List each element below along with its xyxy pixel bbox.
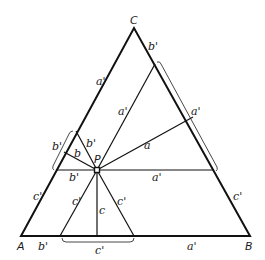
- label-b-perp: b: [74, 147, 81, 160]
- label-c-prime-right-side: c': [233, 190, 242, 203]
- label-a-prime-inner: a': [118, 105, 128, 118]
- vertex-a-label: A: [16, 240, 25, 253]
- label-c-prime-left-side: c': [33, 190, 42, 203]
- label-b-prime-upper: b': [86, 137, 96, 150]
- label-a-prime-horizontal: a': [152, 171, 162, 184]
- label-c-prime-base-bracket: c': [95, 244, 104, 257]
- triangle-diagram: C A B P b' a' a' a' a b' b b' b' a' c' c…: [0, 0, 265, 260]
- label-a-prime-left-side: a': [96, 75, 106, 88]
- triangle-abc: [21, 28, 250, 236]
- label-a-prime-right-bracket: a': [191, 105, 201, 118]
- label-c-prime-inner-left: c': [72, 195, 81, 208]
- vertex-b-label: B: [245, 240, 253, 253]
- label-c-perp: c: [99, 204, 105, 217]
- vertex-c-label: C: [130, 14, 138, 27]
- label-c-prime-inner-right: c': [117, 195, 126, 208]
- label-a-prime-base: a': [187, 240, 197, 253]
- point-p-label: P: [94, 153, 101, 166]
- label-b-prime-left-bracket: b': [52, 140, 62, 153]
- base-bracket: [62, 238, 134, 242]
- label-a-perp: a: [144, 139, 151, 152]
- label-b-prime-top-right: b': [148, 40, 158, 53]
- parallel-to-bc-down: [97, 170, 134, 236]
- label-b-prime-horizontal: b': [69, 171, 79, 184]
- label-b-prime-base: b': [38, 240, 48, 253]
- right-bracket: [157, 62, 217, 171]
- point-p-marker: [95, 168, 100, 173]
